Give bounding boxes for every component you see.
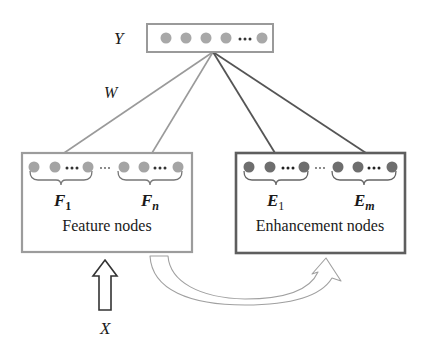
- feature-node: [139, 162, 150, 173]
- edge-output-to-feature-left: [64, 52, 213, 153]
- feature-nodes-caption: Feature nodes: [62, 217, 151, 234]
- weights-label: W: [104, 84, 119, 101]
- feature-node: [173, 162, 184, 173]
- enhancement-node: [299, 162, 310, 173]
- ellipsis-dot: [100, 167, 102, 169]
- ellipsis-dot: [368, 167, 371, 170]
- feature-node: [119, 162, 130, 173]
- edge-output-to-enhancement-right: [213, 52, 366, 153]
- input-label: X: [99, 319, 111, 338]
- feature-to-enhancement-arrow-icon: [150, 256, 341, 305]
- edge-output-to-enhancement-left: [213, 52, 275, 153]
- output-label: Y: [114, 29, 125, 48]
- enhancement-node: [353, 162, 364, 173]
- enhancement-node: [244, 162, 255, 173]
- output-node: [221, 33, 232, 44]
- output-layer: [147, 24, 273, 52]
- input-arrow-icon: [93, 260, 117, 310]
- output-node: [181, 33, 192, 44]
- ellipsis-dot: [315, 167, 317, 169]
- ellipsis-dot: [76, 167, 79, 170]
- output-ellipsis-dot: [239, 38, 242, 41]
- ellipsis-dot: [323, 167, 325, 169]
- ellipsis-dot: [71, 167, 74, 170]
- ellipsis-dot: [319, 167, 321, 169]
- ellipsis-dot: [104, 167, 106, 169]
- feature-node: [83, 162, 94, 173]
- enhancement-node: [387, 162, 398, 173]
- ellipsis-dot: [154, 167, 157, 170]
- enhancement-nodes-caption: Enhancement nodes: [256, 217, 384, 234]
- enhancement-node: [265, 162, 276, 173]
- ellipsis-dot: [66, 167, 69, 170]
- ellipsis-dot: [108, 167, 110, 169]
- bls-diagram: Y W F1 Fn Feature nodes: [0, 0, 423, 356]
- output-node: [257, 33, 268, 44]
- feature-node: [50, 162, 61, 173]
- ellipsis-dot: [159, 167, 162, 170]
- output-node: [161, 33, 172, 44]
- feature-box: [22, 153, 192, 252]
- feature-node: [29, 162, 40, 173]
- ellipsis-dot: [287, 167, 290, 170]
- output-ellipsis-dot: [249, 38, 252, 41]
- edge-output-to-feature-right: [152, 52, 213, 153]
- enhancement-layer: [236, 153, 405, 253]
- feature-layer: [22, 153, 192, 252]
- ellipsis-dot: [292, 167, 295, 170]
- output-node: [201, 33, 212, 44]
- enhancement-node: [333, 162, 344, 173]
- ellipsis-dot: [373, 167, 376, 170]
- weight-edges: [64, 52, 366, 153]
- ellipsis-dot: [282, 167, 285, 170]
- output-ellipsis-dot: [244, 38, 247, 41]
- ellipsis-dot: [378, 167, 381, 170]
- ellipsis-dot: [164, 167, 167, 170]
